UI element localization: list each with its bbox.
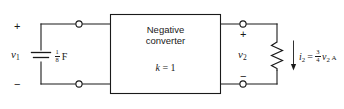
terminal-top-right xyxy=(240,21,246,27)
left-voltage-label: v1 xyxy=(11,49,20,61)
left-minus-sign: − xyxy=(14,79,20,90)
capacitor-value-fraction: 18 xyxy=(55,49,60,64)
right-plus-sign: + xyxy=(240,29,246,40)
right-voltage-label: v2 xyxy=(238,49,247,61)
terminal-bottom-left xyxy=(76,81,82,87)
circuit-diagram-figure: + v1 − 18F Negativeconverter k=1 + v2 − … xyxy=(0,0,344,109)
negative-converter-title: Negativeconverter xyxy=(110,25,221,46)
equation-voltage-subscript: 2 xyxy=(327,56,330,63)
terminal-top-left xyxy=(76,21,82,27)
parameter-equals: = xyxy=(162,62,168,73)
current-coefficient-fraction: 34 xyxy=(315,49,320,64)
right-voltage-subscript: 2 xyxy=(243,53,247,62)
left-plus-sign: + xyxy=(14,21,20,32)
coefficient-denominator: 4 xyxy=(315,57,320,64)
right-minus-sign: − xyxy=(240,71,246,82)
current-arrow-head xyxy=(291,64,296,71)
current-equals: = xyxy=(307,51,313,62)
converter-parameter: k=1 xyxy=(110,62,221,73)
current-subscript: 2 xyxy=(302,56,305,63)
left-voltage-subscript: 1 xyxy=(16,53,20,62)
box-title-line2: converter xyxy=(146,35,186,46)
parameter-value: 1 xyxy=(171,62,176,73)
capacitor-value-label: 18F xyxy=(54,49,67,64)
current-equation-label: i2=34v2A xyxy=(299,49,337,64)
capacitor-value-denominator: 8 xyxy=(55,57,60,64)
circuit-schematic-drawing xyxy=(0,0,344,109)
resistor-zigzag xyxy=(272,42,283,71)
current-unit: A xyxy=(331,54,336,62)
parameter-symbol: k xyxy=(155,62,159,73)
box-title-line1: Negative xyxy=(147,24,185,35)
capacitor-unit: F xyxy=(62,51,68,62)
